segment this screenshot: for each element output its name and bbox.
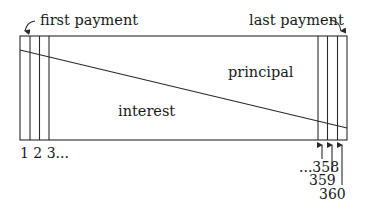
tick-360-label: 360	[319, 186, 346, 202]
last-payment-label: last payment	[249, 12, 344, 28]
first-payment-strips	[30, 36, 49, 140]
interest-label: interest	[118, 103, 175, 119]
first-payment-arrow-icon	[25, 21, 35, 31]
interest-principal-divider	[20, 50, 347, 128]
amortization-diagram: first payment last payment principal int…	[0, 0, 370, 208]
principal-label: principal	[228, 64, 294, 80]
last-payment-strips	[318, 36, 338, 140]
first-payments-tick-label: 1 2 3...	[20, 145, 69, 161]
first-payment-label: first payment	[40, 12, 138, 28]
loan-rectangle	[20, 36, 347, 140]
